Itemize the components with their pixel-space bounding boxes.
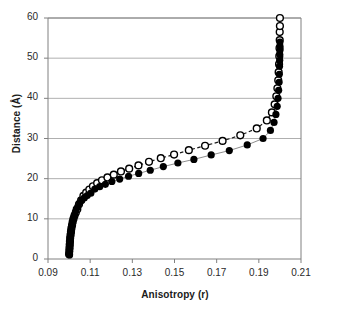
open-circle-marker	[277, 23, 284, 30]
filled-circle-marker	[102, 181, 109, 188]
filled-circle-marker	[274, 95, 281, 102]
open-circle-marker	[118, 168, 125, 175]
open-circle-marker	[237, 132, 244, 139]
filled-circle-marker	[267, 127, 274, 134]
open-circle-marker	[219, 138, 226, 145]
y-tick-label-40: 40	[6, 91, 38, 102]
open-circle-marker	[110, 171, 117, 178]
open-circle-marker	[146, 158, 153, 165]
open-circle-marker	[277, 15, 284, 22]
y-tick-label-60: 60	[6, 11, 38, 22]
filled-circle-marker	[276, 39, 283, 46]
open-circle-marker	[185, 147, 192, 154]
x-tick-label-0.19: 0.19	[237, 267, 281, 278]
filled-circle-marker	[190, 156, 197, 163]
open-circle-marker	[253, 125, 260, 132]
y-axis-label: Distance (Å)	[11, 64, 22, 184]
filled-circle-marker	[276, 71, 283, 78]
data-series-layer	[66, 15, 284, 259]
y-tick-label-50: 50	[6, 51, 38, 62]
filled-circle-marker	[244, 141, 251, 148]
x-axis-label: Anisotropy (r)	[48, 289, 302, 300]
filled-circle-marker	[259, 135, 266, 142]
x-tick-label-0.17: 0.17	[195, 267, 239, 278]
filled-circle-marker	[174, 159, 181, 166]
x-tick-label-0.21: 0.21	[279, 267, 323, 278]
filled-circle-marker	[160, 163, 167, 170]
open-circle-marker	[126, 165, 133, 172]
filled-series-solid-line	[70, 42, 280, 255]
open-circle-marker	[263, 117, 270, 124]
filled-circle-marker	[275, 87, 282, 94]
filled-circle-marker	[208, 151, 215, 158]
open-circle-marker	[157, 155, 164, 162]
y-tick-label-0: 0	[6, 252, 38, 263]
x-tick-label-0.13: 0.13	[110, 267, 154, 278]
x-tick-label-0.09: 0.09	[26, 267, 70, 278]
filled-circle-marker	[226, 147, 233, 154]
filled-circle-marker	[272, 111, 279, 118]
filled-circle-marker	[270, 119, 277, 126]
filled-circle-marker	[275, 79, 282, 86]
filled-circle-marker	[125, 173, 132, 180]
filled-circle-marker	[116, 175, 123, 182]
y-tick-label-10: 10	[6, 212, 38, 223]
y-tick-label-30: 30	[6, 132, 38, 143]
open-circle-marker	[202, 142, 209, 149]
open-circle-marker	[135, 162, 142, 169]
x-tick-label-0.11: 0.11	[68, 267, 112, 278]
x-tick-label-0.15: 0.15	[153, 267, 197, 278]
y-tick-label-20: 20	[6, 172, 38, 183]
open-circle-marker	[171, 151, 178, 158]
filled-circle-marker	[135, 170, 142, 177]
filled-circle-marker	[274, 103, 281, 110]
filled-circle-marker	[108, 178, 115, 185]
plot-canvas	[0, 0, 346, 312]
anisotropy-distance-chart: Distance (Å) Anisotropy (r) 010203040506…	[0, 0, 346, 312]
filled-circle-marker	[147, 167, 154, 174]
